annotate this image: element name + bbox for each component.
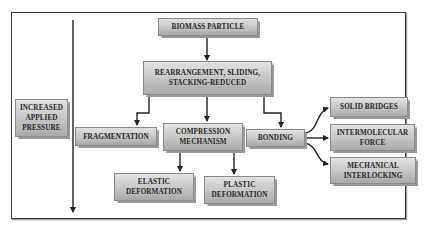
node-label-line-2: STACKING-REDUCED xyxy=(169,78,246,88)
node-label-line-2: DEFORMATION xyxy=(211,190,267,200)
node-biomass-particle: BIOMASS PARTICLE xyxy=(158,18,258,36)
node-label-line-1: INTERMOLECULAR xyxy=(337,128,409,138)
node-label-line-2: FORCE xyxy=(360,138,386,148)
node-solid-bridges: SOLID BRIDGES xyxy=(330,97,408,117)
node-compression-mechanism: COMPRESSION MECHANISM xyxy=(163,123,243,151)
node-label: SOLID BRIDGES xyxy=(340,102,398,112)
node-mechanical-interlocking: MECHANICAL INTERLOCKING xyxy=(330,157,416,184)
node-label: FRAGMENTATION xyxy=(83,132,149,142)
side-label-line-3: PRESSURE xyxy=(22,123,60,133)
node-label: BONDING xyxy=(258,133,293,143)
node-label-line-1: COMPRESSION xyxy=(176,127,231,137)
node-bonding: BONDING xyxy=(246,129,305,147)
node-label-line-1: ELASTIC xyxy=(138,177,170,187)
node-label-line-1: REARRANGEMENT, SLIDING, xyxy=(155,68,260,78)
node-elastic-deformation: ELASTIC DEFORMATION xyxy=(114,173,194,201)
node-label-line-2: DEFORMATION xyxy=(126,187,182,197)
node-plastic-deformation: PLASTIC DEFORMATION xyxy=(204,176,275,204)
node-fragmentation: FRAGMENTATION xyxy=(75,127,157,146)
node-label-line-2: INTERLOCKING xyxy=(344,171,403,181)
increased-applied-pressure-label: INCREASED APPLIED PRESSURE xyxy=(15,99,68,137)
node-intermolecular-force: INTERMOLECULAR FORCE xyxy=(330,124,415,151)
node-label-line-1: MECHANICAL xyxy=(347,161,399,171)
side-label-line-2: APPLIED xyxy=(25,113,57,123)
node-label-line-1: PLASTIC xyxy=(224,180,256,190)
node-label-line-2: MECHANISM xyxy=(179,137,226,147)
node-rearrangement: REARRANGEMENT, SLIDING, STACKING-REDUCED xyxy=(143,61,272,95)
node-label: BIOMASS PARTICLE xyxy=(172,22,245,32)
side-label-line-1: INCREASED xyxy=(20,103,63,113)
